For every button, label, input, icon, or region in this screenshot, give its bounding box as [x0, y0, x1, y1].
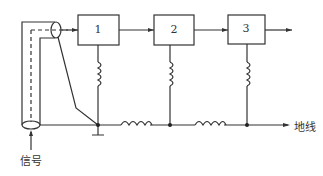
block-1-label: 1: [88, 23, 108, 36]
inductor-vertical-1: [98, 45, 101, 125]
inductor-horizontal-2: [195, 122, 226, 126]
circuit-diagram: [0, 0, 323, 176]
signal-label: 信号: [20, 152, 42, 168]
inductor-vertical-2: [170, 45, 173, 125]
coaxial-cable: [22, 22, 98, 129]
block-2-label: 2: [164, 23, 184, 36]
block-3-label: 3: [236, 22, 256, 35]
inductor-horizontal-1: [121, 122, 152, 126]
ground-label: 地线: [294, 118, 316, 134]
inductor-vertical-3: [247, 44, 250, 125]
